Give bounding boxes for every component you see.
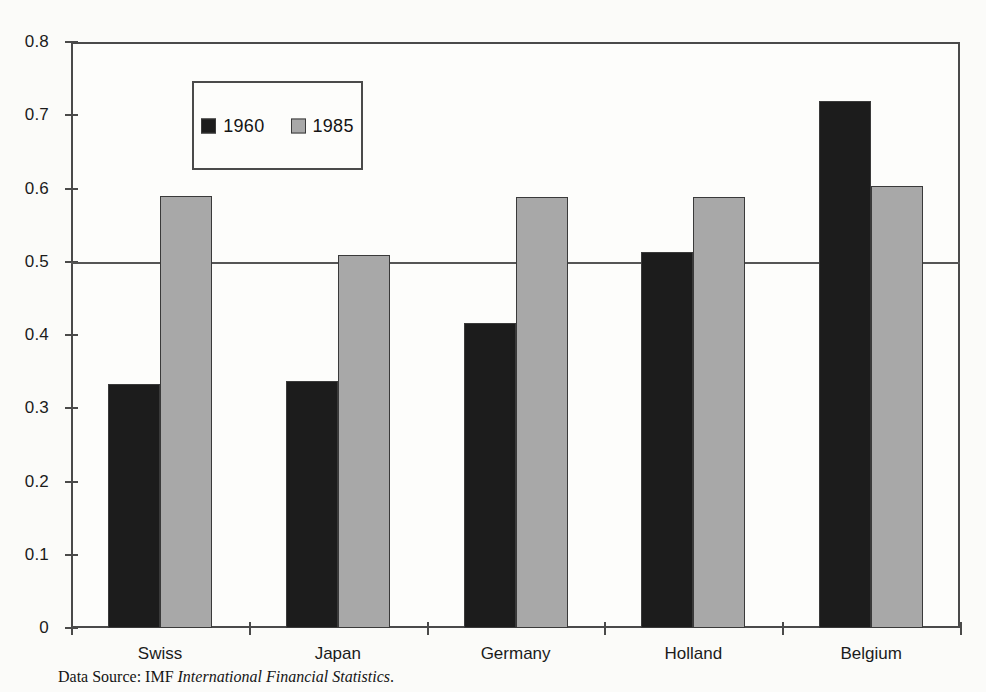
x-axis-tick-mark: [71, 622, 73, 635]
x-axis-label-belgium: Belgium: [840, 644, 901, 664]
x-axis-tick-mark: [249, 622, 251, 635]
x-axis-label-swiss: Swiss: [138, 644, 182, 664]
legend-entry-1985: 1985: [291, 115, 354, 136]
caption-prefix: Data Source: IMF: [58, 668, 178, 685]
chart-caption: Data Source: IMF International Financial…: [58, 668, 394, 686]
bar-japan-1985: [338, 255, 390, 628]
bar-belgium-1985: [871, 186, 923, 628]
y-axis-tick-label: 0: [39, 618, 49, 638]
y-axis-tick-label: 0.7: [25, 105, 49, 125]
bar-holland-1960: [641, 252, 693, 629]
y-axis-tick-label: 0.1: [25, 545, 49, 565]
bar-swiss-1960: [108, 384, 160, 628]
y-axis-tick-label: 0.3: [25, 398, 49, 418]
bar-group-germany: [464, 42, 568, 628]
x-axis-tick-mark: [427, 622, 429, 635]
legend-label-1960: 1960: [223, 115, 264, 136]
x-axis-label-japan: Japan: [315, 644, 361, 664]
caption-suffix: .: [390, 668, 394, 685]
x-axis-tick-mark: [960, 622, 962, 635]
chart-page: 00.10.20.30.40.50.60.70.8 SwissJapanGerm…: [0, 0, 986, 692]
bar-holland-1985: [693, 197, 745, 628]
y-axis-tick-label: 0.6: [25, 179, 49, 199]
bar-group-holland: [641, 42, 745, 628]
y-axis-tick-label: 0.4: [25, 325, 49, 345]
dark-square-swatch: [201, 118, 216, 133]
bar-japan-1960: [286, 381, 338, 628]
legend-entry-1960: 1960: [201, 115, 264, 136]
y-axis-tick-label: 0.5: [25, 252, 49, 272]
bar-germany-1960: [464, 323, 516, 628]
y-axis-tick-label: 0.2: [25, 472, 49, 492]
gray-square-swatch: [291, 118, 306, 133]
bar-germany-1985: [516, 197, 568, 628]
x-axis-tick-mark: [604, 622, 606, 635]
legend-entries: 19601985: [194, 115, 361, 136]
x-axis-tick-mark: [782, 622, 784, 635]
legend-label-1985: 1985: [313, 115, 354, 136]
caption-publication-title: International Financial Statistics: [178, 668, 390, 685]
bar-belgium-1960: [819, 101, 871, 628]
y-axis: 00.10.20.30.40.50.60.70.8: [0, 0, 71, 692]
x-axis-label-germany: Germany: [481, 644, 551, 664]
x-axis-label-holland: Holland: [665, 644, 723, 664]
bar-swiss-1985: [160, 196, 212, 628]
bar-group-belgium: [819, 42, 923, 628]
chart-legend: 19601985: [192, 81, 363, 170]
y-axis-tick-label: 0.8: [25, 32, 49, 52]
